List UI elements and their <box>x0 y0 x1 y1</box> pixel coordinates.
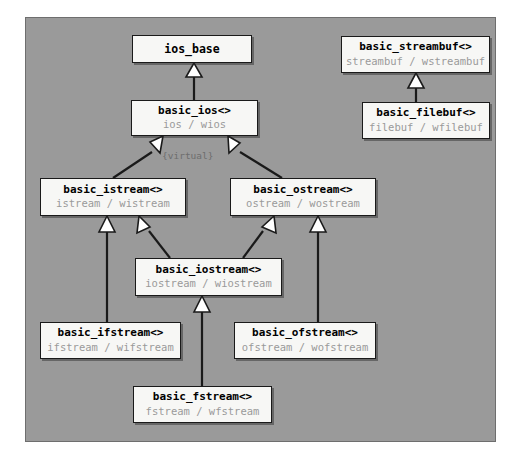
class-node-basic-filebuf[interactable]: basic_filebuf<> filebuf / wfilebuf <box>362 102 490 139</box>
class-name: basic_iostream<> <box>156 264 262 276</box>
class-typedefs: streambuf / wstreambuf <box>346 56 485 68</box>
class-name: basic_filebuf<> <box>376 107 475 119</box>
class-node-basic-ios[interactable]: basic_ios<> ios / wios <box>131 100 258 136</box>
class-name: basic_streambuf<> <box>359 41 472 53</box>
class-node-basic-iostream[interactable]: basic_iostream<> iostream / wiostream <box>135 258 282 296</box>
class-typedefs: ofstream / wofstream <box>242 342 368 354</box>
class-name: basic_ostream<> <box>253 184 352 196</box>
class-node-basic-ostream[interactable]: basic_ostream<> ostream / wostream <box>230 178 376 216</box>
class-name: basic_ofstream<> <box>252 327 358 339</box>
class-typedefs: istream / wistream <box>56 198 170 210</box>
class-typedefs: ios / wios <box>163 119 226 131</box>
class-node-basic-fstream[interactable]: basic_fstream<> fstream / wfstream <box>133 386 272 423</box>
class-name: basic_istream<> <box>63 184 162 196</box>
class-typedefs: fstream / wfstream <box>146 406 260 418</box>
class-typedefs: ifstream / wifstream <box>47 342 173 354</box>
class-node-basic-ofstream[interactable]: basic_ofstream<> ofstream / wofstream <box>234 322 376 359</box>
class-typedefs: iostream / wiostream <box>145 278 271 290</box>
class-name: basic_fstream<> <box>153 391 252 403</box>
class-name: basic_ios<> <box>158 105 231 117</box>
class-node-basic-ifstream[interactable]: basic_ifstream<> ifstream / wifstream <box>40 322 181 359</box>
class-name: ios_base <box>164 43 219 56</box>
diagram-page: {virtual} ios_base basic_ios<> ios / wio… <box>0 0 519 463</box>
virtual-inheritance-label: {virtual} <box>162 150 213 161</box>
diagram-panel <box>25 17 496 442</box>
class-typedefs: ostream / wostream <box>246 198 360 210</box>
class-name: basic_ifstream<> <box>58 327 164 339</box>
class-node-basic-streambuf[interactable]: basic_streambuf<> streambuf / wstreambuf <box>341 36 490 73</box>
class-typedefs: filebuf / wfilebuf <box>369 122 483 134</box>
class-node-ios-base[interactable]: ios_base <box>132 35 252 63</box>
class-node-basic-istream[interactable]: basic_istream<> istream / wistream <box>40 178 186 216</box>
